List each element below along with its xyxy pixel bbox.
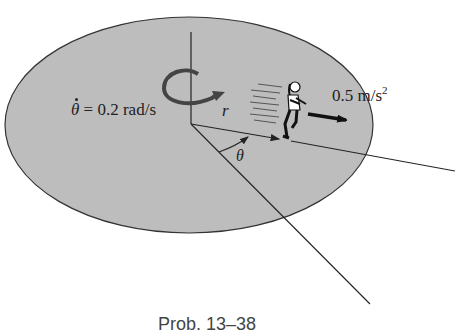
acceleration-exponent: 2 xyxy=(382,84,388,96)
angular-velocity-value: 0.2 rad/s xyxy=(97,100,156,119)
rotating-platform xyxy=(5,17,373,233)
theta-dot-symbol: θ xyxy=(71,100,79,120)
figure-caption: Prob. 13–38 xyxy=(158,314,256,334)
radius-label: r xyxy=(222,101,229,121)
equals-sign: = xyxy=(79,100,97,119)
acceleration-value: 0.5 m/s xyxy=(332,86,382,105)
angle-label: θ xyxy=(236,147,244,165)
acceleration-label: 0.5 m/s2 xyxy=(332,84,388,106)
angular-velocity-label: θ = 0.2 rad/s xyxy=(71,100,156,120)
